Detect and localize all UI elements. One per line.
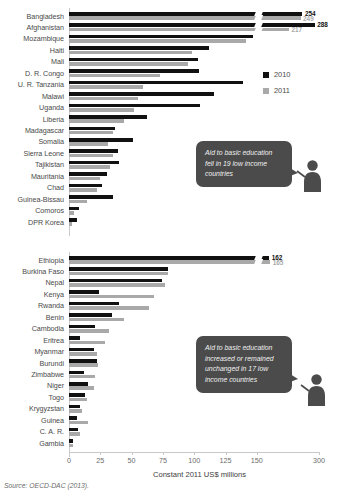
bar-2010 <box>69 23 315 27</box>
bar-row: Madagascar <box>0 127 339 138</box>
bar-2010 <box>69 256 269 260</box>
bar-2010 <box>69 359 97 363</box>
bar-2010 <box>69 172 107 176</box>
category-label: Mozambique <box>0 35 64 42</box>
bar-2011 <box>69 444 73 448</box>
bar-2011 <box>69 222 72 226</box>
bar-2010 <box>69 336 80 340</box>
x-axis-tick <box>194 452 195 455</box>
bar-2011 <box>69 432 80 436</box>
bar-2011 <box>69 97 138 101</box>
axis-break-mark-icon <box>254 27 263 33</box>
bar-2011 <box>69 177 100 181</box>
bar-row: Mozambique <box>0 35 339 46</box>
bar-2010 <box>69 161 119 165</box>
bar-2011 <box>69 188 97 192</box>
category-label: Tajikistan <box>0 161 64 168</box>
bar-2011 <box>69 142 108 146</box>
bar-2011 <box>69 211 74 215</box>
bar-2010 <box>69 290 99 294</box>
bar-2011 <box>69 74 160 78</box>
bar-2011 <box>69 363 98 367</box>
category-label: Burkina Faso <box>0 268 64 275</box>
bar-row: Benin <box>0 313 339 324</box>
x-axis-tick <box>319 452 320 455</box>
presenter-figure-icon <box>296 158 324 192</box>
category-label: DPR Korea <box>0 219 64 226</box>
bar-row: Burkina Faso <box>0 267 339 278</box>
category-label: Togo <box>0 394 64 401</box>
callout-decline-text: Aid to basic education fell in 19 low in… <box>205 149 272 177</box>
x-axis-tick-label: 25 <box>96 456 104 465</box>
bar-2011 <box>69 119 124 123</box>
bar-2010 <box>69 69 199 73</box>
callout-increase-text: Aid to basic education increased or rema… <box>205 344 274 383</box>
category-label: Guinea <box>0 417 64 424</box>
category-label: Sierra Leone <box>0 150 64 157</box>
bar-2010 <box>69 92 214 96</box>
category-label: Nepal <box>0 279 64 286</box>
bar-2010 <box>69 81 243 85</box>
bar-2011 <box>69 409 82 413</box>
legend-label-2010: 2010 <box>274 70 290 79</box>
chart-panel-declining: Bangladesh254249Afghanistan288217Mozambi… <box>0 8 339 240</box>
x-axis-tick <box>69 452 70 455</box>
bar-row: Afghanistan288217 <box>0 23 339 34</box>
x-axis-tick-label: 100 <box>188 456 200 465</box>
category-label: Kenya <box>0 291 64 298</box>
category-label: D. R. Congo <box>0 70 64 77</box>
bar-row: Krygyzstan <box>0 405 339 416</box>
legend-swatch-2010-icon <box>263 72 269 78</box>
category-label: Myanmar <box>0 348 64 355</box>
legend-swatch-2011-icon <box>263 88 269 94</box>
category-label: Mali <box>0 58 64 65</box>
bar-2011 <box>69 341 105 345</box>
bar-2011 <box>69 131 113 135</box>
callout-increase: Aid to basic education increased or rema… <box>196 336 292 393</box>
bar-2011 <box>69 352 97 356</box>
category-label: Afghanistan <box>0 24 64 31</box>
bar-2011 <box>69 154 113 158</box>
bar-2010 <box>69 405 80 409</box>
bar-2010 <box>69 325 95 329</box>
bar-row: Haiti <box>0 46 339 57</box>
data-label: 249 <box>303 16 314 22</box>
bar-row: Guinea <box>0 416 339 427</box>
category-label: Ethiopia <box>0 257 64 264</box>
bar-2011 <box>69 295 154 299</box>
category-label: Rwanda <box>0 302 64 309</box>
category-label: Cambodia <box>0 325 64 332</box>
bar-2010 <box>69 218 77 222</box>
bar-2010 <box>69 382 88 386</box>
category-label: Gambia <box>0 440 64 447</box>
bar-2011 <box>69 272 168 276</box>
category-label: Burundi <box>0 360 64 367</box>
x-axis-tick <box>257 452 258 455</box>
bar-2011 <box>69 386 94 390</box>
bar-2011 <box>69 85 143 89</box>
bar-2011 <box>69 165 110 169</box>
data-label: 217 <box>292 27 303 33</box>
callout-tail-icon <box>290 374 298 382</box>
bar-2010 <box>69 393 85 397</box>
category-label: Malawi <box>0 93 64 100</box>
bar-row: Guinea-Bissau <box>0 195 339 206</box>
bar-2010 <box>69 207 79 211</box>
bar-2010 <box>69 371 84 375</box>
source-note: Source: OECD-DAC (2013). <box>4 482 89 489</box>
x-axis-tick-label: 300 <box>313 456 325 465</box>
data-label: 288 <box>317 22 328 28</box>
category-label: Madagascar <box>0 127 64 134</box>
bar-2010 <box>69 35 253 39</box>
bar-row: Togo <box>0 393 339 404</box>
bar-2011 <box>69 62 188 66</box>
bar-2010 <box>69 195 113 199</box>
bar-row: Mali <box>0 58 339 69</box>
x-axis-tick-label: 125 <box>220 456 232 465</box>
category-label: Somalia <box>0 138 64 145</box>
bar-row: Comoros <box>0 207 339 218</box>
bar-row: Bangladesh254249 <box>0 12 339 23</box>
axis-break-mark-icon <box>254 15 263 21</box>
category-label: C. A. R. <box>0 428 64 435</box>
legend-item-2011: 2011 <box>263 86 290 95</box>
